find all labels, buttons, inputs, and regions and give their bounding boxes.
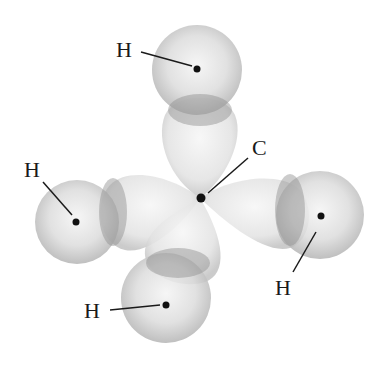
label-hydrogen-top: H xyxy=(116,37,132,62)
hydrogen-top-nucleus xyxy=(194,66,201,73)
label-carbon: C xyxy=(252,135,267,160)
overlap-right xyxy=(275,174,305,246)
overlap-bottom xyxy=(146,248,210,278)
carbon-nucleus xyxy=(197,194,206,203)
hydrogen-right-nucleus xyxy=(318,213,325,220)
label-hydrogen-right: H xyxy=(275,275,291,300)
label-hydrogen-bottom: H xyxy=(84,298,100,323)
overlap-left xyxy=(99,178,127,246)
methane-orbital-diagram: C H H H H xyxy=(0,0,385,367)
hydrogen-bottom-nucleus xyxy=(163,302,170,309)
hydrogen-left-nucleus xyxy=(73,219,80,226)
label-hydrogen-left: H xyxy=(24,157,40,182)
overlap-top xyxy=(168,94,232,126)
